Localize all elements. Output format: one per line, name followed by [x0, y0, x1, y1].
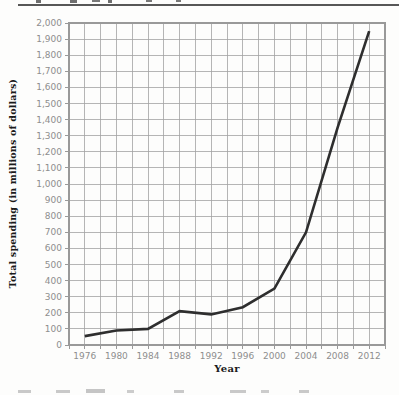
y-tick-label: 800 — [45, 211, 62, 221]
y-tick-label: 1,000 — [36, 179, 62, 189]
y-tick-label: 900 — [45, 195, 62, 205]
x-tick-labels: 1976198019841988199219962000200420082012 — [73, 351, 380, 361]
chart-canvas: 1976198019841988199219962000200420082012… — [0, 0, 399, 395]
x-tick-label: 2000 — [263, 351, 286, 361]
text-remnant — [86, 389, 105, 393]
x-tick-label: 1992 — [200, 351, 223, 361]
x-tick-label: 1988 — [168, 351, 191, 361]
text-remnant — [56, 390, 70, 393]
x-tick-label: 2008 — [326, 351, 349, 361]
y-tick-label: 1,600 — [36, 82, 62, 92]
x-axis-title: Year — [69, 363, 385, 374]
y-tick-label: 1,100 — [36, 163, 62, 173]
y-tick-label: 1,400 — [36, 115, 62, 125]
y-tick-label: 200 — [45, 308, 62, 318]
y-tick-label: 100 — [45, 324, 62, 334]
y-tick-label: 1,700 — [36, 66, 62, 76]
axis-ticks — [65, 23, 385, 349]
x-tick-label: 1980 — [105, 351, 128, 361]
x-tick-label: 1996 — [231, 351, 254, 361]
y-axis-title: Total spending (in millions of dollars) — [7, 24, 20, 344]
x-tick-label: 2012 — [358, 351, 381, 361]
text-remnant — [230, 390, 246, 393]
y-tick-label: 600 — [45, 243, 62, 253]
x-tick-label: 1976 — [73, 351, 96, 361]
y-tick-label: 1,200 — [36, 147, 62, 157]
text-remnant — [18, 390, 31, 393]
text-remnant — [261, 390, 269, 393]
text-remnant — [299, 390, 309, 393]
y-tick-label: 400 — [45, 276, 62, 286]
y-tick-label: 0 — [56, 340, 62, 350]
y-tick-labels: 01002003004005006007008009001,0001,1001,… — [36, 18, 62, 350]
line-chart: 1976198019841988199219962000200420082012… — [0, 0, 399, 395]
x-tick-label: 1984 — [137, 351, 160, 361]
y-tick-label: 1,800 — [36, 50, 62, 60]
y-tick-label: 700 — [45, 227, 62, 237]
x-tick-label: 2004 — [295, 351, 318, 361]
y-tick-label: 1,500 — [36, 99, 62, 109]
text-remnant — [174, 390, 184, 393]
grid-lines — [69, 23, 385, 345]
y-tick-label: 1,300 — [36, 131, 62, 141]
text-remnant — [127, 390, 134, 393]
y-tick-label: 2,000 — [36, 18, 62, 28]
y-tick-label: 500 — [45, 260, 62, 270]
y-tick-label: 300 — [45, 292, 62, 302]
y-tick-label: 1,900 — [36, 34, 62, 44]
